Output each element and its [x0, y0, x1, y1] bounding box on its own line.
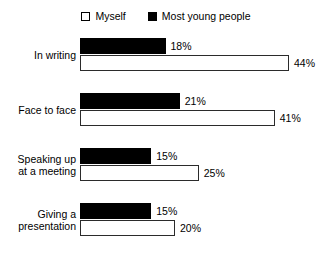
bar-group: Giving apresentation15%20% — [0, 203, 332, 237]
bar-myself — [80, 165, 199, 181]
bar-value-label: 20% — [180, 223, 201, 234]
bar-value-label: 18% — [171, 41, 192, 52]
bar-value-label: 21% — [185, 96, 206, 107]
category-label-line: at a meeting — [18, 165, 76, 178]
category-label: In writing — [0, 38, 76, 72]
bar-most-young-people — [80, 148, 151, 164]
chart-legend: Myself Most young people — [0, 11, 332, 22]
bar-most-young-people — [80, 38, 166, 54]
category-label-line: Giving a — [37, 208, 76, 221]
bar-myself — [80, 110, 275, 126]
category-label-line: Speaking up — [18, 153, 76, 166]
plot-area: In writing18%44%Face to face21%41%Speaki… — [0, 38, 332, 250]
bar-value-label: 25% — [204, 168, 225, 179]
legend-swatch-myself — [81, 12, 90, 21]
category-label-line: In writing — [34, 49, 76, 62]
bar-group: Speaking upat a meeting15%25% — [0, 148, 332, 182]
legend-entry-myself: Myself — [81, 11, 125, 22]
bar-myself — [80, 55, 289, 71]
bar-most-young-people — [80, 93, 180, 109]
bar-myself — [80, 220, 175, 236]
category-label-line: presentation — [18, 220, 76, 233]
bar-group: Face to face21%41% — [0, 93, 332, 127]
legend-label-myself: Myself — [95, 11, 125, 22]
legend-label-most-young-people: Most young people — [162, 11, 251, 22]
category-label: Giving apresentation — [0, 203, 76, 237]
legend-swatch-most-young-people — [148, 12, 157, 21]
legend-entry-most-young-people: Most young people — [148, 11, 251, 22]
bar-value-label: 41% — [280, 113, 301, 124]
bar-value-label: 15% — [156, 151, 177, 162]
category-label: Face to face — [0, 93, 76, 127]
bar-value-label: 44% — [294, 58, 315, 69]
bar-most-young-people — [80, 203, 151, 219]
bar-value-label: 15% — [156, 206, 177, 217]
bar-chart: Myself Most young people In writing18%44… — [0, 0, 332, 254]
bar-group: In writing18%44% — [0, 38, 332, 72]
category-label: Speaking upat a meeting — [0, 148, 76, 182]
category-label-line: Face to face — [18, 104, 76, 117]
